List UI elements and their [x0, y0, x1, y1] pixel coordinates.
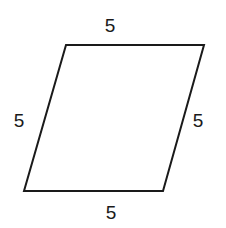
side-label-top: 5 — [95, 16, 125, 35]
side-label-left: 5 — [4, 111, 34, 130]
parallelogram-figure: 5 5 5 5 — [0, 0, 226, 228]
side-label-bottom: 5 — [96, 203, 126, 222]
parallelogram-outline — [24, 45, 204, 191]
side-label-right: 5 — [183, 111, 213, 130]
